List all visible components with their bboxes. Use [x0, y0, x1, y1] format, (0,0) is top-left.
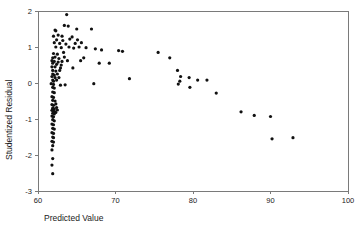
- data-point: [178, 80, 181, 83]
- data-point: [54, 29, 57, 32]
- data-point: [50, 75, 53, 78]
- data-point: [51, 69, 54, 72]
- data-point: [51, 172, 54, 175]
- x-axis-title: Predicted Value: [44, 213, 104, 223]
- x-axis-ticks: 60708090100: [34, 191, 354, 205]
- data-point: [53, 99, 56, 102]
- data-point: [54, 70, 57, 73]
- data-point: [98, 62, 101, 65]
- x-tick-label: 70: [111, 196, 119, 205]
- data-point: [52, 83, 55, 86]
- data-point: [253, 114, 256, 117]
- data-point: [57, 57, 60, 60]
- y-tick-label: -3: [25, 187, 32, 196]
- data-point: [52, 132, 55, 135]
- data-point: [84, 46, 87, 49]
- data-point: [68, 37, 71, 40]
- data-point: [53, 127, 56, 130]
- data-point: [50, 148, 53, 151]
- data-point: [52, 115, 55, 118]
- data-point: [54, 45, 57, 48]
- data-point: [67, 45, 70, 48]
- data-point: [94, 47, 97, 50]
- y-axis-ticks: -3-2-1012: [25, 7, 38, 196]
- plot-frame: [38, 11, 348, 191]
- data-point: [58, 42, 61, 45]
- data-point: [60, 46, 63, 49]
- data-point: [58, 69, 61, 72]
- data-point: [117, 49, 120, 52]
- data-point: [269, 115, 272, 118]
- data-point: [62, 51, 65, 54]
- data-point: [52, 52, 55, 55]
- data-point: [61, 39, 64, 42]
- data-point: [60, 35, 63, 38]
- x-tick-label: 100: [342, 196, 355, 205]
- data-point: [64, 43, 67, 46]
- data-point: [52, 140, 55, 143]
- data-point: [60, 60, 63, 63]
- data-point: [63, 24, 66, 27]
- data-point: [71, 66, 74, 69]
- data-point: [53, 65, 56, 68]
- data-point: [72, 46, 75, 49]
- data-point: [176, 69, 179, 72]
- data-point: [188, 86, 191, 89]
- x-tick-label: 90: [266, 196, 274, 205]
- y-tick-label: 2: [28, 7, 32, 16]
- data-point: [53, 41, 56, 44]
- data-point: [75, 27, 78, 30]
- data-point: [52, 123, 55, 126]
- data-point: [52, 80, 55, 83]
- data-point: [188, 76, 191, 79]
- data-point: [57, 76, 60, 79]
- data-point: [80, 41, 83, 44]
- data-point: [196, 79, 199, 82]
- y-axis-title: Studentized Residual: [4, 80, 14, 160]
- data-point: [57, 34, 60, 37]
- y-tick-label: 0: [28, 79, 32, 88]
- data-point: [56, 53, 59, 56]
- data-point: [66, 59, 69, 62]
- data-point: [90, 27, 93, 30]
- data-point: [179, 75, 182, 78]
- data-point: [76, 38, 79, 41]
- data-point: [53, 55, 56, 58]
- data-point: [51, 62, 54, 65]
- y-tick-label: 1: [28, 43, 32, 52]
- data-point: [63, 55, 66, 58]
- data-point: [79, 59, 82, 62]
- data-point: [53, 91, 56, 94]
- data-point: [82, 56, 85, 59]
- data-point: [59, 84, 62, 87]
- data-point: [54, 102, 57, 105]
- data-point: [53, 86, 56, 89]
- data-point: [205, 79, 208, 82]
- data-point: [55, 38, 58, 41]
- data-point: [52, 136, 55, 139]
- data-point: [55, 79, 58, 82]
- x-tick-label: 80: [189, 196, 197, 205]
- data-point: [215, 91, 218, 94]
- data-point: [177, 82, 180, 85]
- data-point: [92, 82, 95, 85]
- y-tick-label: -1: [25, 115, 32, 124]
- x-tick-label: 60: [34, 196, 42, 205]
- data-point: [54, 111, 57, 114]
- data-point: [51, 157, 54, 160]
- data-point: [128, 77, 131, 80]
- data-point: [100, 48, 103, 51]
- data-point: [77, 45, 80, 48]
- y-tick-label: -2: [25, 151, 32, 160]
- data-point: [67, 25, 70, 28]
- data-point: [108, 62, 111, 65]
- data-point: [51, 144, 54, 147]
- scatter-chart: 60708090100 -3-2-1012 Predicted Value St…: [0, 0, 360, 235]
- data-point: [168, 56, 171, 59]
- data-point: [157, 51, 160, 54]
- data-point: [50, 163, 53, 166]
- data-point: [239, 110, 242, 113]
- data-point: [52, 96, 55, 99]
- data-point: [56, 72, 59, 75]
- data-point: [64, 83, 67, 86]
